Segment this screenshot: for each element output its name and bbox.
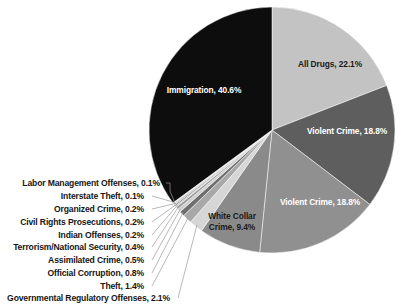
callout-label-organized-crime: Organized Crime, 0.2% bbox=[54, 204, 144, 214]
slice-label-immigration: Immigration, 40.6% bbox=[167, 85, 242, 95]
leader-line-official-corruption bbox=[152, 212, 183, 273]
leader-line-terrorism-national-security bbox=[152, 207, 178, 247]
slice-label-white-collar-crime-line1: White Collar bbox=[208, 211, 256, 221]
slice-label-white-collar-crime-line2: Crime, 9.4% bbox=[209, 222, 256, 232]
callout-label-indian-offenses: Indian Offenses, 0.2% bbox=[58, 230, 144, 240]
callout-label-assimilated-crime: Assimilated Crime, 0.5% bbox=[48, 255, 144, 265]
slice-label-all-drugs: All Drugs, 22.1% bbox=[298, 59, 363, 69]
callout-labels-group: Labor Management Offenses, 0.1%Interstat… bbox=[7, 178, 170, 303]
leader-line-governmental-regulatory-offenses bbox=[178, 225, 197, 298]
callout-label-theft: Theft, 1.4% bbox=[100, 281, 144, 291]
callout-label-civil-rights-prosecutions: Civil Rights Prosecutions, 0.2% bbox=[20, 217, 144, 227]
callout-label-interstate-theft: Interstate Theft, 0.1% bbox=[61, 191, 145, 201]
pie-chart: All Drugs, 22.1%Violent Crime, 18.8%Viol… bbox=[0, 0, 406, 306]
callout-label-official-corruption: Official Corruption, 0.8% bbox=[47, 268, 144, 278]
callout-label-governmental-regulatory-offenses: Governmental Regulatory Offenses, 2.1% bbox=[7, 293, 170, 303]
slice-label-violent-crime-2: Violent Crime, 18.8% bbox=[280, 197, 361, 207]
leader-line-assimilated-crime bbox=[152, 209, 180, 260]
leader-line-organized-crime bbox=[152, 203, 176, 209]
leader-line-indian-offenses bbox=[152, 205, 177, 235]
callout-label-terrorism-national-security: Terrorism/National Security, 0.4% bbox=[13, 242, 144, 252]
pie-chart-page: All Drugs, 22.1%Violent Crime, 18.8%Viol… bbox=[0, 0, 406, 306]
leader-line-civil-rights-prosecutions bbox=[152, 204, 176, 222]
callout-label-labor-management-offenses: Labor Management Offenses, 0.1% bbox=[22, 178, 160, 188]
slice-label-violent-crime-1: Violent Crime, 18.8% bbox=[307, 126, 388, 136]
